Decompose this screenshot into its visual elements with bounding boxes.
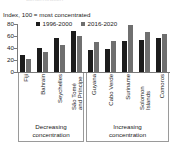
group-label: Increasingconcentration <box>87 123 168 138</box>
y-axis: 020406080 <box>0 0 17 144</box>
bar <box>60 45 65 72</box>
bar <box>139 40 144 72</box>
group-label: Decreasingconcentration <box>19 123 83 138</box>
bar <box>54 38 59 72</box>
clipped-header-remnant: concentration <box>26 0 96 4</box>
bar-group <box>68 24 85 72</box>
y-axis-tick-label: 0 <box>0 69 14 75</box>
bar <box>43 52 48 72</box>
bar <box>88 50 93 72</box>
bar-group <box>136 24 153 72</box>
bar-series-container <box>17 24 170 72</box>
group-label-line2: concentration <box>19 131 83 138</box>
bar-group <box>51 24 68 72</box>
bar <box>145 32 150 72</box>
bar <box>156 38 161 72</box>
group-box: Increasingconcentration <box>86 73 169 142</box>
clipped-header-text: concentration <box>26 0 96 3</box>
y-axis-tick-label: 40 <box>0 45 14 51</box>
bar-chart: concentration Index, 100 = most concentr… <box>0 0 173 144</box>
bar <box>94 42 99 72</box>
bar <box>20 55 25 72</box>
group-label-line1: Increasing <box>87 123 168 130</box>
bar-group <box>153 24 170 72</box>
group-box: Decreasingconcentration <box>18 73 84 142</box>
y-axis-tick-label: 80 <box>0 21 14 27</box>
bar <box>111 41 116 72</box>
group-label-line1: Decreasing <box>19 123 83 130</box>
y-axis-tick-label: 20 <box>0 57 14 63</box>
bar <box>162 34 167 72</box>
group-label-line2: concentration <box>87 131 168 138</box>
bar <box>105 49 110 72</box>
bar <box>71 31 76 72</box>
bar <box>26 59 31 72</box>
bar-group <box>102 24 119 72</box>
bar <box>122 41 127 72</box>
plot-area <box>17 24 170 72</box>
y-axis-tick-label: 60 <box>0 33 14 39</box>
bar-group <box>85 24 102 72</box>
bar-group <box>119 24 136 72</box>
bar <box>128 25 133 72</box>
bar-group <box>34 24 51 72</box>
bar-group <box>17 24 34 72</box>
bar <box>77 36 82 72</box>
bar <box>37 48 42 72</box>
